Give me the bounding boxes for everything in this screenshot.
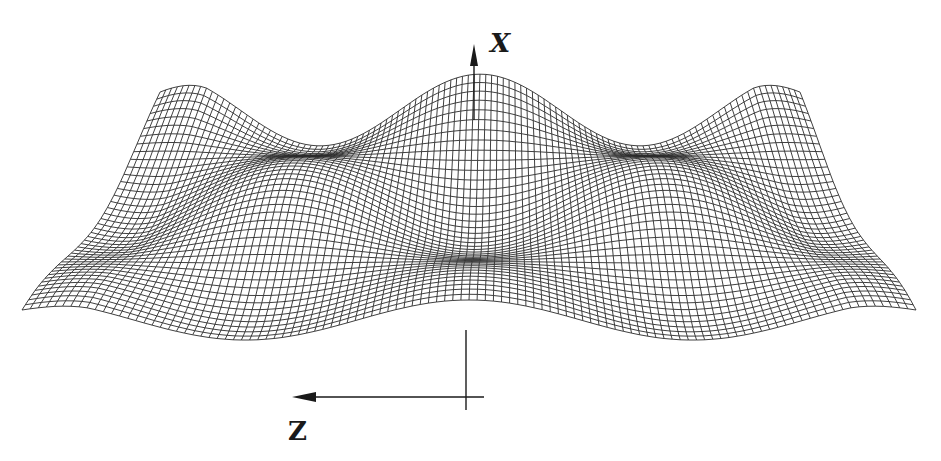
- axis-label-z: Z: [288, 416, 307, 446]
- wireframe-surface-figure: [0, 0, 941, 461]
- axis-label-x: X: [490, 28, 510, 58]
- mesh-lines: [22, 74, 916, 340]
- horizontal-axis-arrowhead-icon: [292, 392, 316, 402]
- wireframe-mesh: [22, 74, 916, 340]
- vertical-axis-arrowhead-icon: [470, 44, 478, 66]
